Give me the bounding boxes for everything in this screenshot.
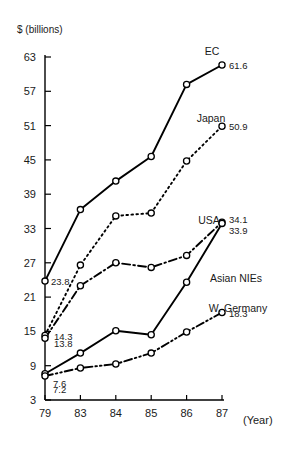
series-name-label: Japan (197, 112, 226, 124)
x-tick-label: 85 (145, 407, 157, 419)
x-tick-label: 87 (216, 407, 228, 419)
data-point-marker (148, 264, 154, 270)
y-tick-label: 45 (24, 154, 36, 166)
series-end-value-label: 33.9 (229, 225, 248, 236)
series-name-label: Asian NIEs (210, 272, 262, 284)
y-tick-label: 63 (24, 51, 36, 63)
series-name-label: USA (198, 214, 220, 226)
data-point-marker (77, 365, 83, 371)
data-point-marker (148, 153, 154, 159)
data-point-marker (113, 260, 119, 266)
y-tick-label: 33 (24, 223, 36, 235)
y-tick-label: 39 (24, 188, 36, 200)
series-end-value-label: 34.1 (229, 214, 248, 225)
data-point-marker (113, 213, 119, 219)
data-point-marker (148, 210, 154, 216)
y-tick-label: 51 (24, 120, 36, 132)
y-tick-label: 9 (30, 360, 36, 372)
data-point-marker (77, 283, 83, 289)
data-point-marker (219, 220, 225, 226)
data-point-marker (184, 279, 190, 285)
data-point-marker (77, 262, 83, 268)
x-tick-label: 84 (110, 407, 122, 419)
data-point-marker (77, 350, 83, 356)
x-tick-label: 83 (74, 407, 86, 419)
y-tick-label: 3 (30, 394, 36, 406)
data-point-marker (184, 158, 190, 164)
series-start-value-label: 23.8 (51, 276, 70, 287)
data-point-marker (184, 81, 190, 87)
series-end-value-label: 18.3 (229, 308, 248, 319)
data-point-marker (184, 329, 190, 335)
data-point-marker (42, 335, 48, 341)
series-end-value-label: 61.6 (229, 60, 248, 71)
data-point-marker (184, 252, 190, 258)
series-name-label: EC (205, 45, 220, 57)
x-axis-year-note: (Year) (243, 414, 273, 426)
y-axis-unit-label: $ (billions) (17, 24, 63, 35)
line-chart: $ (billions) 39152127333945515763 798384… (0, 0, 295, 449)
y-tick-label: 21 (24, 291, 36, 303)
data-point-marker (42, 373, 48, 379)
y-tick-label: 57 (24, 85, 36, 97)
x-tick-label: 79 (39, 407, 51, 419)
data-point-marker (113, 328, 119, 334)
data-point-marker (77, 207, 83, 213)
chart-background (0, 0, 295, 449)
x-tick-label: 86 (180, 407, 192, 419)
data-point-marker (113, 361, 119, 367)
series-end-value-label: 50.9 (229, 121, 248, 132)
data-point-marker (219, 62, 225, 68)
y-tick-label: 27 (24, 257, 36, 269)
series-start-value-label: 7.2 (53, 384, 66, 395)
y-tick-label: 15 (24, 325, 36, 337)
data-point-marker (219, 123, 225, 129)
data-point-marker (42, 278, 48, 284)
data-point-marker (148, 350, 154, 356)
chart-canvas: $ (billions) 39152127333945515763 798384… (0, 0, 295, 449)
series-start-value-label: 13.8 (54, 338, 73, 349)
data-point-marker (113, 178, 119, 184)
data-point-marker (148, 332, 154, 338)
